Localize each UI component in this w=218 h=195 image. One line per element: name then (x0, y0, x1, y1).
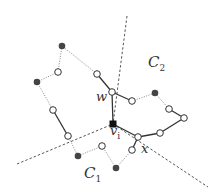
region-label-c2: C2 (148, 55, 165, 73)
vertex-filled (59, 43, 66, 50)
graph-svg (0, 0, 218, 195)
vertex-open (109, 89, 116, 96)
vertex-open (157, 130, 164, 137)
vertex-open (129, 147, 136, 154)
dotted-edge (102, 146, 116, 168)
vertex-label-x: x (141, 142, 148, 155)
vertex-open (94, 71, 101, 78)
dashed-boundary-line (113, 16, 127, 124)
vertex-open (181, 115, 188, 122)
diagram-canvas: C2 C1 w vi x (0, 0, 218, 195)
dotted-edge (37, 82, 53, 110)
vertex-open (129, 98, 136, 105)
vertex-filled (152, 90, 159, 97)
solid-edge (160, 118, 184, 133)
vertex-open (50, 107, 57, 114)
vertex-open (55, 69, 62, 76)
solid-edge (53, 110, 68, 136)
vertex-filled (34, 79, 41, 86)
dotted-edge (58, 46, 62, 72)
vertex-open (166, 106, 173, 113)
region-label-c1: C1 (84, 166, 101, 184)
solid-edge (112, 92, 113, 124)
dotted-edge (62, 46, 97, 74)
vertex-filled (75, 153, 82, 160)
vertex-label-vi: vi (110, 124, 120, 141)
vertex-open (65, 133, 72, 140)
dotted-edge (78, 146, 102, 156)
vertex-label-w: w (96, 90, 107, 103)
vertex-open (135, 134, 142, 141)
vertex-open (99, 143, 106, 150)
vertex-filled (113, 165, 120, 172)
